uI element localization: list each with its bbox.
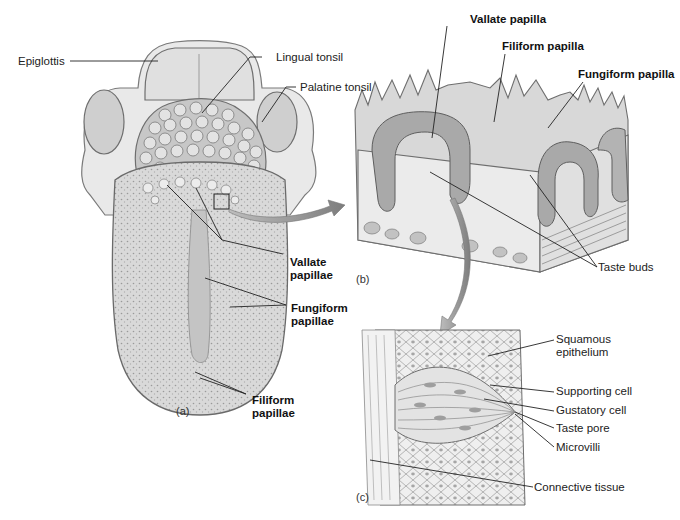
label-fungiform-papilla: Fungiform papilla <box>578 68 674 81</box>
label-epiglottis: Epiglottis <box>18 55 65 68</box>
panel-b-block <box>355 70 628 272</box>
left-palatine-tonsil <box>84 90 124 154</box>
label-taste-buds: Taste buds <box>598 261 654 274</box>
tongue-anatomy-figure: Epiglottis Lingual tonsil Palatine tonsi… <box>0 0 680 520</box>
label-palatine-tonsil: Palatine tonsil <box>300 81 372 94</box>
label-taste-pore: Taste pore <box>556 422 610 435</box>
panel-letter-a: (a) <box>176 405 189 417</box>
label-filiform-papillae: Filiform papillae <box>252 394 295 420</box>
panel-letter-b: (b) <box>356 273 369 285</box>
label-microvilli: Microvilli <box>556 441 600 454</box>
panel-c-taste-bud <box>362 330 525 505</box>
panel-a-tongue <box>82 41 316 415</box>
label-lingual-tonsil: Lingual tonsil <box>276 51 343 64</box>
label-gustatory-cell: Gustatory cell <box>556 404 626 417</box>
panel-letter-c: (c) <box>356 491 369 503</box>
label-filiform-papilla: Filiform papilla <box>502 40 584 53</box>
label-fungiform-papillae: Fungiform papillae <box>291 302 348 328</box>
label-supporting-cell: Supporting cell <box>556 385 632 398</box>
label-connective-tissue: Connective tissue <box>534 481 625 494</box>
label-vallate-papillae: Vallate papillae <box>290 256 333 282</box>
label-vallate-papilla: Vallate papilla <box>470 13 546 26</box>
label-squamous-epithelium: Squamous epithelium <box>556 333 611 359</box>
